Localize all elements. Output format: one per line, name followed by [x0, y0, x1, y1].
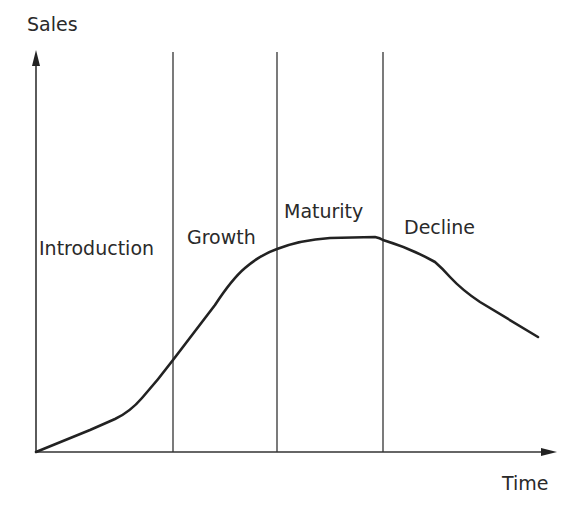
- sales-curve: [36, 237, 538, 452]
- y-axis-label: Sales: [27, 13, 78, 35]
- stage-label-decline: Decline: [404, 216, 475, 238]
- x-axis-label: Time: [502, 472, 549, 494]
- x-axis-arrow-icon: [541, 448, 557, 456]
- y-axis-arrow-icon: [32, 50, 40, 66]
- stage-label-growth: Growth: [187, 226, 256, 248]
- product-life-cycle-diagram: Sales Time Introduction Growth Maturity …: [0, 0, 583, 508]
- stage-label-introduction: Introduction: [39, 237, 154, 259]
- stage-label-maturity: Maturity: [284, 200, 363, 222]
